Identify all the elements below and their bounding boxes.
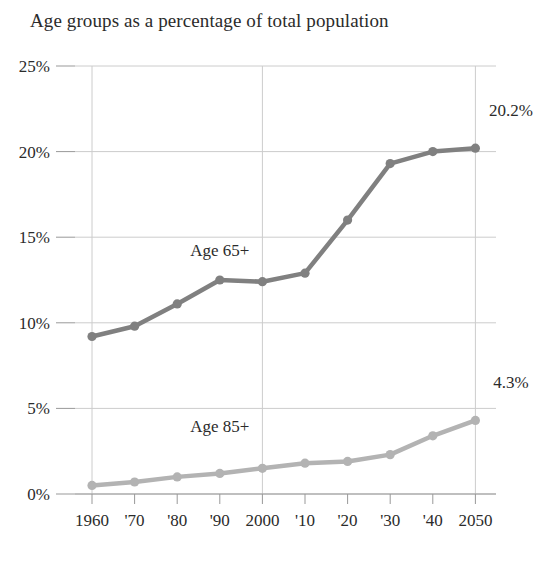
x-axis-tick-label: '40	[423, 511, 443, 530]
chart-annotation-label: Age 65+	[190, 241, 249, 260]
x-axis-tick-label: '30	[380, 511, 400, 530]
y-axis-tick-label: 25%	[19, 57, 50, 76]
data-point-marker	[215, 469, 224, 478]
chart-annotation-label: 4.3%	[493, 373, 528, 392]
data-point-marker	[300, 459, 309, 468]
series-markers	[87, 144, 480, 490]
data-point-marker	[343, 215, 352, 224]
x-axis-tick-label: '90	[210, 511, 230, 530]
data-point-marker	[258, 277, 267, 286]
data-point-marker	[471, 416, 480, 425]
series-lines	[92, 148, 475, 485]
data-point-marker	[87, 481, 96, 490]
x-axis-tick-label: '10	[295, 511, 315, 530]
data-point-marker	[300, 269, 309, 278]
chart-annotation-label: 20.2%	[489, 101, 533, 120]
chart-annotations: Age 65+Age 85+20.2%4.3%	[190, 101, 533, 437]
x-axis-tick-labels: 1960'70'80'902000'10'20'30'402050	[75, 511, 492, 530]
data-point-marker	[386, 450, 395, 459]
data-point-marker	[428, 147, 437, 156]
series-line	[92, 148, 475, 336]
y-axis-tick-label: 5%	[27, 399, 50, 418]
data-point-marker	[173, 299, 182, 308]
y-axis-tick-labels: 0%5%10%15%20%25%	[19, 57, 50, 504]
x-axis-tick-label: 1960	[75, 511, 109, 530]
x-axis-ticks	[92, 494, 475, 504]
gridlines	[75, 66, 496, 494]
y-axis-tick-label: 20%	[19, 143, 50, 162]
x-axis-tick-label: 2000	[245, 511, 279, 530]
data-point-marker	[258, 464, 267, 473]
data-point-marker	[343, 457, 352, 466]
y-axis-tick-label: 15%	[19, 228, 50, 247]
data-point-marker	[130, 477, 139, 486]
x-axis-tick-label: '20	[338, 511, 358, 530]
data-point-marker	[130, 322, 139, 331]
y-axis-tick-label: 10%	[19, 314, 50, 333]
data-point-marker	[386, 159, 395, 168]
series-line	[92, 420, 475, 485]
x-axis-tick-label: '80	[167, 511, 187, 530]
y-axis-ticks	[56, 66, 75, 494]
data-point-marker	[215, 275, 224, 284]
data-point-marker	[428, 431, 437, 440]
chart-annotation-label: Age 85+	[190, 417, 249, 436]
line-chart-plot: 0%5%10%15%20%25% 1960'70'80'902000'10'20…	[0, 0, 537, 570]
data-point-marker	[173, 472, 182, 481]
x-axis-tick-label: 2050	[458, 511, 492, 530]
chart-container: Age groups as a percentage of total popu…	[0, 0, 537, 570]
data-point-marker	[471, 144, 480, 153]
x-axis-tick-label: '70	[125, 511, 145, 530]
data-point-marker	[87, 332, 96, 341]
y-axis-tick-label: 0%	[27, 485, 50, 504]
